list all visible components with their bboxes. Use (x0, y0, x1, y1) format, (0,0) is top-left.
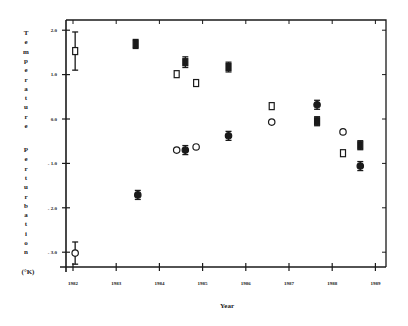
data-point-filled-circle (357, 162, 363, 171)
x-tick-label: 1982 (68, 281, 79, 286)
data-point-open-square (72, 32, 78, 70)
y-tick-label: 2.0 (51, 28, 58, 33)
y-tick-label: 1.0 (51, 72, 58, 77)
svg-text:o: o (24, 239, 28, 247)
svg-text:r: r (24, 193, 27, 201)
data-point-filled-square (133, 39, 139, 48)
data-point-filled-square (182, 57, 188, 68)
y-axis-label: TemperaturePerturbation(°K) (22, 29, 36, 276)
scatter-chart: 2.01.00.0- 1.0- 2.0- 3.0 198219831984198… (0, 0, 408, 326)
x-tick-label: 1985 (198, 281, 209, 286)
svg-text:r: r (24, 113, 27, 121)
x-tick-label: 1986 (241, 281, 252, 286)
svg-text:p: p (24, 57, 28, 65)
svg-text:n: n (24, 248, 28, 256)
data-point-open-circle (269, 119, 275, 125)
x-axis-label: Year (220, 302, 234, 310)
data-point-open-square (174, 71, 179, 78)
data-point-open-square (341, 150, 346, 157)
x-tick-label: 1983 (111, 281, 122, 286)
data-points (72, 32, 364, 264)
y-axis-unit: (°K) (22, 268, 36, 276)
data-point-open-square (269, 103, 274, 110)
data-point-filled-circle (225, 131, 231, 140)
svg-text:m: m (23, 48, 29, 56)
data-point-filled-circle (135, 190, 141, 199)
svg-text:a: a (24, 85, 28, 93)
svg-text:u: u (24, 103, 28, 111)
x-tick-label: 1987 (284, 281, 295, 286)
data-point-filled-square (226, 62, 232, 72)
svg-text:e: e (24, 38, 27, 46)
data-point-filled-square (314, 117, 320, 126)
svg-text:b: b (24, 202, 28, 210)
svg-text:T: T (24, 29, 29, 37)
data-point-open-circle (72, 242, 78, 264)
y-tick-label: - 1.0 (48, 161, 58, 166)
svg-text:r: r (24, 165, 27, 173)
x-tick-label: 1988 (327, 281, 338, 286)
svg-text:P: P (24, 146, 29, 154)
data-point-open-circle (340, 129, 346, 135)
data-point-open-circle (193, 144, 199, 150)
svg-text:i: i (25, 230, 27, 238)
x-tick-label: 1984 (154, 281, 165, 286)
x-tick-label: 1989 (370, 281, 381, 286)
y-tick-label: - 3.0 (48, 250, 58, 255)
svg-text:e: e (24, 155, 27, 163)
svg-text:u: u (24, 183, 28, 191)
svg-text:e: e (24, 122, 27, 130)
svg-text:a: a (24, 211, 28, 219)
svg-text:t: t (25, 220, 28, 228)
data-point-filled-square (357, 141, 363, 150)
data-point-filled-circle (182, 146, 188, 155)
y-tick-label: 0.0 (51, 117, 58, 122)
plot-frame (60, 20, 386, 272)
svg-text:t: t (25, 174, 28, 182)
svg-text:r: r (24, 76, 27, 84)
svg-text:e: e (24, 66, 27, 74)
y-tick-label: - 2.0 (48, 206, 58, 211)
data-point-filled-circle (314, 100, 320, 109)
data-point-open-square (194, 80, 199, 87)
svg-text:t: t (25, 94, 28, 102)
data-point-open-circle (173, 147, 179, 153)
